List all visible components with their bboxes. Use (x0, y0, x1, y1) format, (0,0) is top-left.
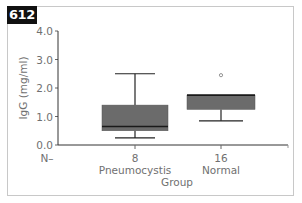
iqr-box (187, 95, 255, 109)
box-plot-chart: IgG (mg/ml) 0.01.02.03.04.0 N– 8Pneumocy… (0, 0, 302, 203)
y-tick-label: 0.0 (36, 139, 53, 151)
x-axis-labels: 8Pneumocystis16Normal (99, 145, 240, 176)
n-label: N– (40, 152, 53, 164)
y-axis-title: IgG (mg/ml) (17, 56, 29, 119)
y-tick-label: 4.0 (36, 25, 53, 37)
box-pneumocystis (102, 74, 168, 138)
category-label: Normal (202, 164, 240, 176)
y-tick-label: 2.0 (36, 82, 53, 94)
sample-size-label: 8 (132, 152, 139, 164)
y-tick-label: 3.0 (36, 54, 53, 66)
box-normal (187, 74, 255, 121)
y-axis-ticks: 0.01.02.03.04.0 (36, 25, 58, 151)
x-axis-title: Group (161, 176, 193, 188)
category-label: Pneumocystis (99, 164, 172, 176)
sample-size-label: 16 (214, 152, 228, 164)
outlier-point (219, 74, 222, 77)
box-series (102, 74, 255, 138)
y-tick-label: 1.0 (36, 111, 53, 123)
